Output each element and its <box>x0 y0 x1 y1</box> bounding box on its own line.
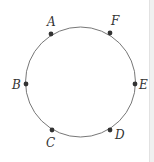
point-d-dot <box>108 128 113 133</box>
point-c-dot <box>50 128 55 133</box>
right-edge-divider <box>149 0 154 162</box>
point-e-label: E <box>138 78 148 92</box>
circle-diagram: A F B E C D <box>0 0 154 162</box>
point-c-label: C <box>46 136 55 150</box>
point-d-label: D <box>114 128 125 142</box>
point-c: C <box>46 128 55 150</box>
point-a-dot <box>49 32 54 37</box>
point-f: F <box>108 14 120 35</box>
diagram-canvas: A F B E C D <box>0 0 154 162</box>
point-b-label: B <box>11 78 21 92</box>
point-a-label: A <box>46 15 56 29</box>
point-b-dot <box>24 82 29 87</box>
point-e-dot <box>133 82 138 87</box>
point-f-dot <box>108 31 113 36</box>
circle <box>26 27 136 137</box>
point-f-label: F <box>110 14 120 28</box>
point-d: D <box>108 128 125 142</box>
